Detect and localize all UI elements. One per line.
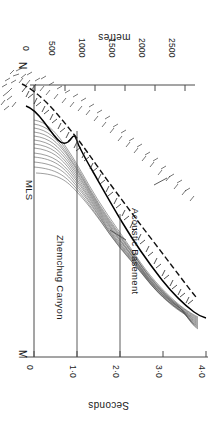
- endpoint-label-m: M: [17, 350, 28, 358]
- seconds-tick-0: 0: [25, 365, 35, 370]
- zhemchug-canyon-label: Zhemchug Canyon: [55, 235, 66, 320]
- lower-chaotic-wedge: [1, 84, 16, 110]
- seismic-profile-figure: metres 0 500 1000 1500 2000 2500 Seconds…: [0, 0, 222, 436]
- metres-tick-2000: 2000: [137, 38, 147, 58]
- acoustic-basement-label: Acoustic Basement: [130, 208, 141, 294]
- metres-tick-500: 500: [47, 41, 57, 56]
- metres-tick-2500: 2500: [167, 38, 177, 58]
- metres-tick-0: 0: [21, 46, 31, 51]
- basement-hachures: [22, 87, 193, 304]
- seconds-tick-2: 2·0: [111, 365, 121, 378]
- metres-ticks: [35, 85, 185, 91]
- seconds-tick-1: 1·0: [68, 365, 78, 378]
- axis-lines: [26, 85, 208, 357]
- seconds-axis-title: Seconds: [88, 400, 129, 411]
- seafloor-reflector: [26, 106, 206, 318]
- seconds-tick-4: 4·0: [197, 365, 207, 378]
- mls-label: MLS: [24, 180, 35, 200]
- seconds-tick-3: 3·0: [154, 365, 164, 378]
- metres-tick-1500: 1500: [107, 38, 117, 58]
- acoustic-basement-reflector: [22, 84, 196, 297]
- metres-tick-1000: 1000: [77, 38, 87, 58]
- mls-leader-line: [154, 178, 167, 185]
- endpoint-label-n: N: [17, 62, 28, 69]
